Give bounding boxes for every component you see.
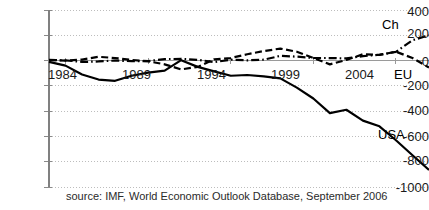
y-tick-label-neg400: -400 [385, 104, 429, 117]
chart-container: 400 200 0 -200 -400 -600 -800 -1000 1984… [0, 0, 429, 210]
x-tick-label-1994: 1994 [197, 68, 226, 81]
y-tick-label-neg800: -800 [385, 154, 429, 167]
series-label-eu: EU [394, 68, 412, 81]
series-label-ch: Ch [382, 18, 399, 31]
series-label-usa: USA [378, 128, 405, 141]
x-tick-label-1984: 1984 [48, 68, 77, 81]
x-tick-label-2004: 2004 [345, 68, 374, 81]
chart-plot-area [0, 0, 429, 210]
y-tick-label-neg1000: -1000 [385, 181, 429, 194]
source-note: source: IMF, World Economic Outlook Data… [66, 191, 387, 202]
x-tick-label-1999: 1999 [271, 68, 300, 81]
x-tick-label-1989: 1989 [122, 68, 151, 81]
